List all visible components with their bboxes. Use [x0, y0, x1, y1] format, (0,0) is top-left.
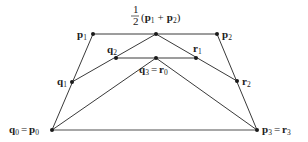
label-q3-r0: q3=r0 — [139, 63, 168, 77]
label-p3-r3: p3=r3 — [262, 123, 291, 137]
label-q0-p0: q0=p0 — [9, 123, 39, 137]
point-mid — [154, 32, 158, 36]
label-q2: q2 — [107, 43, 117, 57]
fraction-denominator: 2 — [133, 15, 139, 27]
label-r2: r2 — [242, 75, 251, 89]
point-p0 — [50, 128, 54, 132]
point-p1 — [91, 32, 95, 36]
label-q1: q1 — [57, 75, 67, 89]
bezier-subdivision-diagram: p1 p2 q2 r1 q1 r2 q3=r0 q0=p0 p3=r3 1 2 … — [0, 0, 308, 142]
point-p3 — [255, 128, 259, 132]
label-p2: p2 — [222, 28, 232, 42]
point-p2 — [215, 32, 219, 36]
point-r1 — [194, 56, 198, 60]
label-midpoint-formula: 1 2 (p1+p2) — [131, 3, 181, 27]
midpoint-expression: (p1+p2) — [141, 11, 181, 25]
point-q3 — [154, 56, 158, 60]
label-r1: r1 — [193, 42, 202, 56]
label-p1: p1 — [77, 28, 87, 42]
fraction-numerator: 1 — [133, 3, 139, 15]
point-r2 — [235, 79, 239, 83]
point-q1 — [70, 80, 74, 84]
